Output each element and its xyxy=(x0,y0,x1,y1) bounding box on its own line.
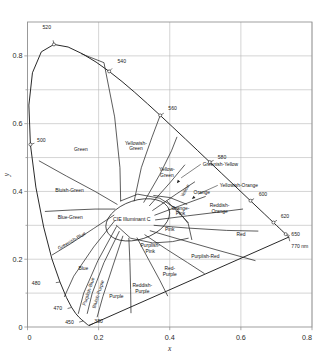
wavelength-label: 470 xyxy=(53,305,62,311)
callout-leader xyxy=(181,164,201,178)
region-label-green: Green xyxy=(74,147,88,152)
region-label-orange-pink: Orange- xyxy=(171,206,189,211)
wavelength-label: 520 xyxy=(42,24,51,30)
wavelength-marker-dot xyxy=(29,143,32,146)
chart-canvas: 00.20.40.60.800.20.40.60.8xy380450470480… xyxy=(0,0,332,356)
region-label-yellowish-green: Green xyxy=(129,146,143,151)
wavelength-marker-dot xyxy=(284,233,287,236)
wavelength-label: 480 xyxy=(32,280,41,286)
wavelength-label: 650 xyxy=(291,231,300,237)
region-divider xyxy=(45,209,115,211)
wavelength-label: 450 xyxy=(65,319,74,325)
region-label-red-purple: Red- xyxy=(164,266,175,271)
region-label-purplish-pink: Purplish- xyxy=(141,243,161,248)
wavelength-tick xyxy=(79,321,83,322)
region-label-red-purple: Purple xyxy=(163,272,177,277)
region-label-greenish-blue: Greenish-Blue xyxy=(57,231,87,251)
y-tick-label: 0 xyxy=(19,323,23,332)
x-tick-label: 0.4 xyxy=(165,333,175,342)
y-tick-label: 0.2 xyxy=(13,255,23,264)
region-label-red: Red xyxy=(236,232,245,237)
region-divider xyxy=(156,209,243,220)
x-tick-label: 0.6 xyxy=(236,333,246,342)
wavelength-marker-dot xyxy=(159,114,162,117)
y-tick-label: 0.4 xyxy=(13,187,23,196)
wavelength-label: 580 xyxy=(218,154,227,160)
chromaticity-diagram-figure: 00.20.40.60.800.20.40.60.8xy380450470480… xyxy=(0,0,332,356)
region-label-reddish-orange: Reddish- xyxy=(210,203,230,208)
callout-label-yellowish-orange: Yellowish-Orange xyxy=(220,183,258,188)
region-label-orange-pink: Pink xyxy=(176,211,186,216)
wavelength-marker-dot xyxy=(52,43,55,46)
wavelength-marker-dot xyxy=(249,199,252,202)
region-label-pink: Pink xyxy=(165,227,175,232)
purple-line xyxy=(89,237,288,325)
region-label-purplish-pink: Pink xyxy=(145,249,155,254)
wavelength-label: 620 xyxy=(281,213,290,219)
y-axis-title: y xyxy=(2,172,11,177)
callout-arrowhead xyxy=(192,196,196,199)
wavelength-tick xyxy=(56,282,60,283)
region-divider xyxy=(134,116,160,201)
region-label-purplish-red: Purplish-Red xyxy=(191,254,220,259)
region-divider xyxy=(87,231,119,313)
x-tick-label: 0.2 xyxy=(94,333,104,342)
y-tick-label: 0.6 xyxy=(13,119,23,128)
wavelength-label: 600 xyxy=(259,191,268,197)
callout-label-greenish-yellow: Greenish-Yellow xyxy=(203,162,239,167)
x-tick-label: 0.8 xyxy=(302,333,312,342)
wavelength-label: 540 xyxy=(117,58,126,64)
region-label-bluish-green: Bluish-Green xyxy=(55,188,84,193)
x-tick-label: 0 xyxy=(28,333,32,342)
x-axis-title: x xyxy=(167,344,172,353)
region-label-reddish-purple: Reddish- xyxy=(133,283,153,288)
region-label-yellow-green: Green xyxy=(160,173,174,178)
wavelength-marker-dot xyxy=(108,70,111,73)
y-tick-label: 0.8 xyxy=(13,51,23,60)
wavelength-label: 770 nm xyxy=(291,243,308,249)
wavelength-tick xyxy=(68,307,72,308)
region-label-yellowish-green: Yellowish- xyxy=(125,141,147,146)
region-label-reddish-purple: Purple xyxy=(135,289,149,294)
region-divider xyxy=(116,225,188,243)
region-label-yellow: Yellow xyxy=(180,183,191,198)
region-divider xyxy=(39,161,117,204)
wavelength-label: 500 xyxy=(37,137,46,143)
white-point-label: CIE Illuminant C xyxy=(113,216,151,222)
region-label-yellow-green: Yellow- xyxy=(159,167,175,172)
region-label-purple: Purple xyxy=(109,294,123,299)
region-divider xyxy=(129,238,131,313)
wavelength-tick xyxy=(289,237,290,241)
wavelength-label: 560 xyxy=(168,105,177,111)
wavelength-marker-dot xyxy=(272,221,275,224)
callout-arrowhead xyxy=(177,180,180,184)
region-label-reddish-orange: Orange xyxy=(211,209,228,214)
region-label-blue: Blue xyxy=(78,266,88,271)
region-label-blue-green: Blue-Green xyxy=(58,215,83,220)
region-divider xyxy=(97,236,123,317)
wavelength-label: 380 xyxy=(94,318,103,324)
